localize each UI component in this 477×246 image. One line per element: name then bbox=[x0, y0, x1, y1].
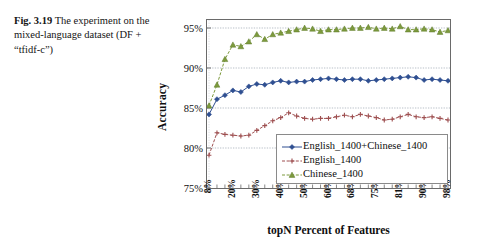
data-point-marker bbox=[238, 134, 243, 139]
data-point-marker bbox=[414, 114, 419, 119]
x-tick-label: 68% bbox=[346, 179, 356, 213]
data-point-marker bbox=[422, 115, 427, 120]
data-point-marker bbox=[310, 117, 315, 122]
data-point-marker bbox=[290, 145, 295, 150]
data-point-marker bbox=[334, 77, 339, 82]
data-point-marker bbox=[350, 77, 355, 82]
data-point-marker bbox=[390, 117, 395, 122]
data-point-marker bbox=[290, 159, 295, 164]
data-point-marker bbox=[430, 77, 435, 82]
data-point-marker bbox=[223, 132, 228, 137]
data-point-marker bbox=[262, 123, 267, 128]
data-point-marker bbox=[366, 78, 371, 83]
data-point-marker bbox=[294, 114, 299, 119]
series-line bbox=[209, 26, 448, 105]
x-tick-label: 8% bbox=[203, 179, 213, 213]
data-point-marker bbox=[214, 97, 219, 102]
figure-number: Fig. 3.19 bbox=[14, 15, 52, 26]
y-tick-label: 90% bbox=[184, 63, 203, 74]
data-point-marker bbox=[318, 77, 323, 82]
data-point-marker bbox=[374, 115, 379, 120]
data-point-marker bbox=[246, 39, 252, 44]
data-point-marker bbox=[286, 80, 291, 85]
data-point-marker bbox=[310, 78, 315, 83]
y-tick-label: 80% bbox=[184, 143, 203, 154]
legend-label: English_1400 bbox=[303, 154, 361, 165]
legend-marker-icon bbox=[281, 139, 303, 151]
data-point-marker bbox=[262, 36, 268, 41]
data-point-marker bbox=[230, 88, 235, 93]
x-tick-label: 98% bbox=[442, 179, 452, 213]
x-tick-label: 40% bbox=[275, 179, 285, 213]
data-point-marker bbox=[430, 114, 435, 119]
data-point-marker bbox=[382, 77, 387, 82]
data-point-marker bbox=[222, 56, 228, 61]
data-point-marker bbox=[398, 114, 403, 119]
figure-caption: Fig. 3.19 The experiment on the mixed-la… bbox=[14, 14, 159, 57]
data-point-marker bbox=[382, 118, 387, 123]
data-point-marker bbox=[262, 82, 267, 87]
y-tick-label: 75% bbox=[184, 183, 203, 194]
data-point-marker bbox=[334, 114, 339, 119]
x-tick-label: 81% bbox=[394, 179, 404, 213]
data-point-marker bbox=[358, 77, 363, 82]
data-point-marker bbox=[438, 116, 443, 121]
data-point-marker bbox=[310, 26, 316, 31]
data-point-marker bbox=[270, 80, 275, 85]
legend-item[interactable]: Chinese_1400 bbox=[281, 166, 443, 180]
x-axis-tick-labels: 8%20%30%40%50%60%68%75%81%90%98% bbox=[206, 190, 451, 224]
data-point-marker bbox=[438, 78, 443, 83]
data-point-marker bbox=[254, 128, 259, 133]
data-point-marker bbox=[254, 32, 260, 37]
y-tick-label: 95% bbox=[184, 23, 203, 34]
data-point-marker bbox=[342, 113, 347, 118]
legend-label: English_1400+Chinese_1400 bbox=[303, 140, 427, 151]
y-axis-title: Accuracy bbox=[156, 62, 168, 152]
data-point-marker bbox=[207, 103, 212, 108]
data-point-marker bbox=[230, 42, 236, 47]
data-point-marker bbox=[326, 76, 331, 81]
data-point-marker bbox=[406, 112, 411, 117]
data-point-marker bbox=[270, 32, 276, 37]
legend-label: Chinese_1400 bbox=[303, 168, 363, 179]
data-point-marker bbox=[446, 78, 451, 83]
data-point-marker bbox=[318, 116, 323, 121]
data-point-marker bbox=[270, 118, 275, 123]
series-3 bbox=[207, 24, 450, 108]
data-point-marker bbox=[286, 110, 291, 115]
data-point-marker bbox=[231, 133, 236, 138]
data-point-marker bbox=[302, 79, 307, 84]
data-point-marker bbox=[342, 26, 348, 31]
series-line bbox=[209, 77, 448, 115]
data-point-marker bbox=[397, 24, 403, 29]
data-point-marker bbox=[207, 153, 211, 158]
data-point-marker bbox=[374, 78, 379, 83]
series-1 bbox=[207, 74, 450, 117]
data-point-marker bbox=[373, 26, 379, 31]
data-point-marker bbox=[278, 115, 283, 120]
legend-item[interactable]: English_1400 bbox=[281, 152, 443, 166]
data-point-marker bbox=[294, 79, 299, 84]
data-point-marker bbox=[207, 112, 212, 117]
legend-marker-icon bbox=[281, 153, 303, 165]
data-point-marker bbox=[414, 75, 419, 80]
x-tick-label: 20% bbox=[227, 179, 237, 213]
x-tick-label: 75% bbox=[370, 179, 380, 213]
data-point-marker bbox=[214, 82, 220, 87]
data-point-marker bbox=[405, 27, 411, 32]
data-point-marker bbox=[215, 130, 220, 135]
x-tick-label: 50% bbox=[299, 179, 309, 213]
x-axis-title: topN Percent of Features bbox=[206, 224, 451, 236]
x-tick-label: 60% bbox=[323, 179, 333, 213]
data-point-marker bbox=[446, 118, 450, 123]
data-point-marker bbox=[254, 82, 259, 87]
data-point-marker bbox=[222, 93, 227, 98]
legend-item[interactable]: English_1400+Chinese_1400 bbox=[281, 138, 443, 152]
data-point-marker bbox=[390, 76, 395, 81]
data-point-marker bbox=[246, 133, 251, 138]
data-point-marker bbox=[437, 29, 443, 34]
y-axis-tick-labels: 75%80%85%90%95% bbox=[170, 19, 203, 189]
data-point-marker bbox=[398, 75, 403, 80]
chart-legend: English_1400+Chinese_1400English_1400Chi… bbox=[276, 134, 448, 184]
data-point-marker bbox=[350, 114, 355, 119]
